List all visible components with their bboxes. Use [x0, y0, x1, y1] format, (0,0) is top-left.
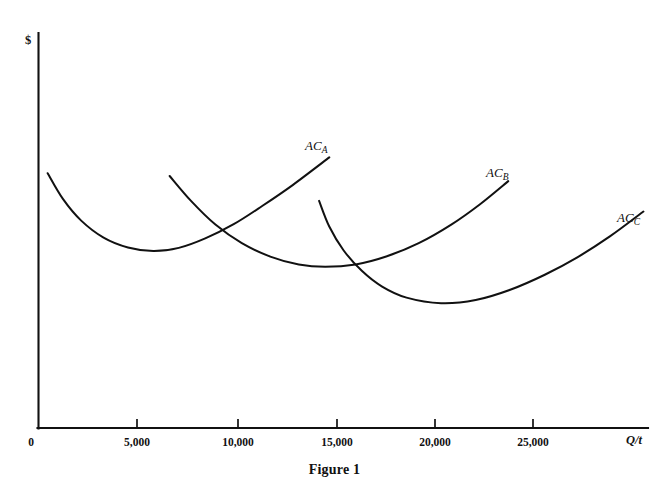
curve-label-ac-b-sub: B: [503, 172, 509, 182]
x-tick-label-25000: 25,000: [517, 436, 549, 448]
curve-label-ac-a: ACA: [304, 138, 328, 155]
x-tick-label-20000: 20,000: [419, 436, 451, 448]
curve-ac-c: [319, 201, 643, 303]
x-axis-title: Q/t: [626, 433, 643, 447]
curve-label-ac-c-sub: C: [634, 217, 641, 227]
x-tick-label-10000: 10,000: [222, 436, 254, 448]
x-tick-label-5000: 5,000: [124, 436, 150, 448]
curve-label-ac-c-main: AC: [616, 210, 634, 225]
y-axis-title: $: [25, 33, 31, 47]
figure-caption: Figure 1: [0, 462, 669, 478]
x-axis-ticks: [137, 419, 533, 428]
x-tick-label-0: 0: [28, 436, 34, 448]
x-tick-label-15000: 15,000: [321, 436, 353, 448]
curve-label-ac-a-sub: A: [321, 145, 328, 155]
axes-group: [38, 33, 649, 429]
curve-label-ac-b: ACB: [485, 165, 509, 182]
figure-container: 0 5,000 10,000 15,000 20,000 25,000 $ Q/…: [0, 0, 669, 497]
curve-label-ac-a-main: AC: [304, 138, 322, 153]
curve-ac-a: [48, 157, 330, 251]
x-axis-tick-labels: 0 5,000 10,000 15,000 20,000 25,000: [28, 436, 549, 448]
curve-label-ac-b-main: AC: [485, 165, 503, 180]
average-cost-chart: 0 5,000 10,000 15,000 20,000 25,000 $ Q/…: [0, 0, 669, 497]
curve-label-ac-c: ACC: [616, 210, 641, 227]
curve-ac-b: [170, 176, 509, 267]
cost-curves-group: [48, 157, 644, 303]
curve-labels-group: ACA ACB ACC: [304, 138, 641, 227]
